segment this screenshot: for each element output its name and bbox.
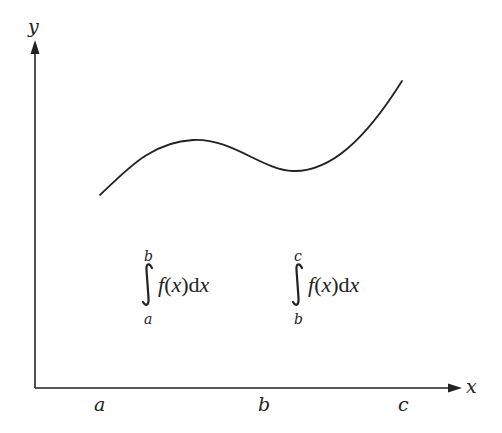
integral-a-to-b: b a f(x)dx [143, 248, 210, 327]
tick-label-a: a [94, 393, 105, 415]
lower-limit: b [294, 311, 303, 327]
integrand: f(x)dx [308, 272, 360, 297]
integral-sign-icon [293, 264, 302, 304]
integral-sign-icon [143, 264, 152, 304]
y-axis-arrow-icon [31, 40, 40, 54]
integral-b-to-c: c b f(x)dx [293, 248, 360, 327]
tick-label-c: c [398, 393, 409, 415]
integral-diagram: y x a b c b a f(x)dx c b f(x)dx [0, 0, 502, 433]
upper-limit: b [144, 248, 153, 264]
tick-label-b: b [258, 393, 270, 415]
lower-limit: a [144, 311, 152, 327]
x-axis-label: x [466, 375, 477, 397]
function-curve [100, 81, 402, 195]
integrand: f(x)dx [158, 272, 210, 297]
x-axis-arrow-icon [448, 384, 462, 393]
y-axis-label: y [27, 15, 39, 37]
upper-limit: c [294, 248, 302, 264]
